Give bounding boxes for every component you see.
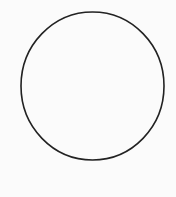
figure-svg bbox=[0, 0, 176, 197]
drawing-canvas bbox=[0, 0, 176, 197]
circle-shape bbox=[21, 12, 164, 160]
